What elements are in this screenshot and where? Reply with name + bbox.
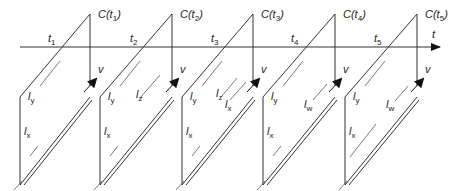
frame-c-t3: C(t3) t3 v ly lz lx lx [176, 8, 284, 190]
velocity-label: v [343, 63, 350, 75]
time-label: t1 [48, 32, 56, 47]
time-label: t2 [130, 32, 138, 47]
segment-label-lx-moving: lx [225, 98, 231, 113]
segment-label-lx: lx [24, 125, 30, 140]
segment-label-lz: lz [136, 88, 142, 103]
segment-label-lw: lw [386, 98, 394, 113]
segment-label-lx: lx [349, 125, 355, 140]
frame-c-t4: C(t4) t4 v ly lw lx [257, 8, 366, 190]
frame-label: C(t2) [180, 8, 203, 23]
time-label: t3 [211, 32, 219, 47]
velocity-label: v [425, 63, 432, 75]
segment-label-ly: ly [28, 90, 34, 105]
frame-label: C(t5) [425, 8, 448, 23]
velocity-label: v [180, 63, 187, 75]
time-label: t4 [291, 32, 299, 47]
segment-label-ly: ly [190, 90, 196, 105]
velocity-label: v [261, 63, 268, 75]
segment-label-lx: lx [267, 125, 273, 140]
velocity-label: v [98, 63, 105, 75]
segment-label-lx: lx [186, 125, 192, 140]
time-axis-label: t [432, 28, 436, 40]
time-label: t5 [374, 32, 382, 47]
segment-label-ly: ly [353, 90, 359, 105]
segment-label-lw: lw [304, 98, 312, 113]
frame-label: C(t1) [98, 8, 121, 23]
segment-label-ly: ly [271, 90, 277, 105]
frame-c-t1: C(t1) t1 v ly lx [14, 8, 121, 190]
segment-label-lx: lx [104, 125, 110, 140]
segment-label-ly: ly [108, 90, 114, 105]
frame-label: C(t3) [261, 8, 284, 23]
frame-label: C(t4) [343, 8, 366, 23]
spacetime-frames-diagram: t C(t1) t1 v ly lx C(t2) t2 v ly lz lx [0, 0, 458, 191]
segment-label-lz: lz [216, 87, 222, 102]
frame-c-t2: C(t2) t2 v ly lz lx [94, 8, 203, 190]
